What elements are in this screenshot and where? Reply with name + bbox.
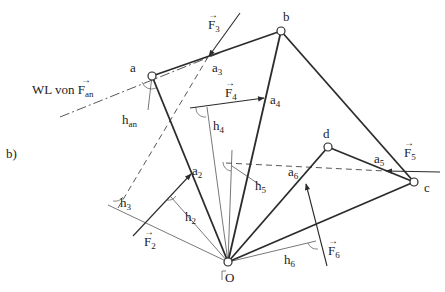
joint-b	[277, 27, 285, 35]
joint-a	[148, 72, 156, 80]
label-h6: h6	[284, 252, 296, 269]
line-of-action-label: WL von Fan →	[32, 74, 94, 99]
bar-c-O	[228, 182, 414, 262]
label-a3: a3	[212, 60, 223, 77]
force-f5-arrow	[386, 171, 440, 172]
mechanism-bars	[152, 31, 414, 262]
label-f2: F2 →	[144, 226, 156, 251]
svg-text:→: →	[225, 77, 235, 88]
svg-text:→: →	[208, 9, 218, 20]
label-a5: a5	[374, 151, 385, 168]
joint-d	[324, 143, 332, 151]
label-han: han	[122, 112, 137, 129]
joint-O	[224, 258, 232, 266]
lever-arms	[108, 76, 316, 262]
bar-d-O	[228, 147, 328, 262]
label-c: c	[424, 180, 430, 195]
label-h4: h4	[213, 118, 225, 135]
bar-b-O	[228, 31, 281, 262]
label-b: b	[283, 9, 290, 24]
label-h5: h5	[255, 178, 267, 195]
label-f3: F3 →	[208, 9, 220, 34]
label-a: a	[130, 60, 136, 75]
label-f5: F5 →	[404, 137, 416, 162]
panel-label: b)	[6, 146, 17, 161]
svg-text:→: →	[81, 74, 91, 85]
force-f2-arrow	[133, 174, 191, 236]
label-a2: a2	[192, 163, 202, 180]
h3-line	[108, 205, 228, 262]
mechanism-diagram: b) a b c d O WL von Fan → F3 → F4 → F2 →…	[0, 0, 445, 292]
force-f6-arrow	[306, 184, 327, 266]
bar-b-c	[281, 31, 414, 182]
label-h2: h2	[185, 209, 196, 226]
label-a4: a4	[270, 92, 281, 109]
label-h3: h3	[120, 195, 132, 212]
label-d: d	[323, 126, 330, 141]
svg-text:→: →	[404, 137, 414, 148]
joint-c	[410, 178, 418, 186]
label-f6: F6 →	[328, 235, 340, 260]
forces	[133, 13, 440, 266]
bar-d-c	[328, 147, 414, 182]
dashed-line-a3	[118, 57, 208, 208]
label-f4: F4 →	[225, 77, 237, 102]
svg-text:→: →	[144, 226, 154, 237]
h2-line	[171, 197, 228, 262]
h6-line	[228, 241, 316, 262]
svg-text:→: →	[328, 235, 338, 246]
label-O: O	[225, 270, 234, 285]
